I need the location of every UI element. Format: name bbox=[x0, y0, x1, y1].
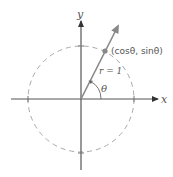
radius-label: r = 1 bbox=[99, 66, 122, 76]
x-axis-label: x bbox=[161, 93, 168, 106]
y-axis-label: y bbox=[76, 8, 84, 21]
point-on-circle bbox=[102, 48, 107, 53]
radius-ray bbox=[81, 26, 118, 99]
unit-circle-diagram: y x (cosθ, sinθ) r = 1 θ bbox=[0, 0, 173, 177]
angle-arc bbox=[90, 81, 101, 99]
point-label: (cosθ, sinθ) bbox=[111, 46, 163, 56]
angle-label: θ bbox=[101, 83, 107, 94]
